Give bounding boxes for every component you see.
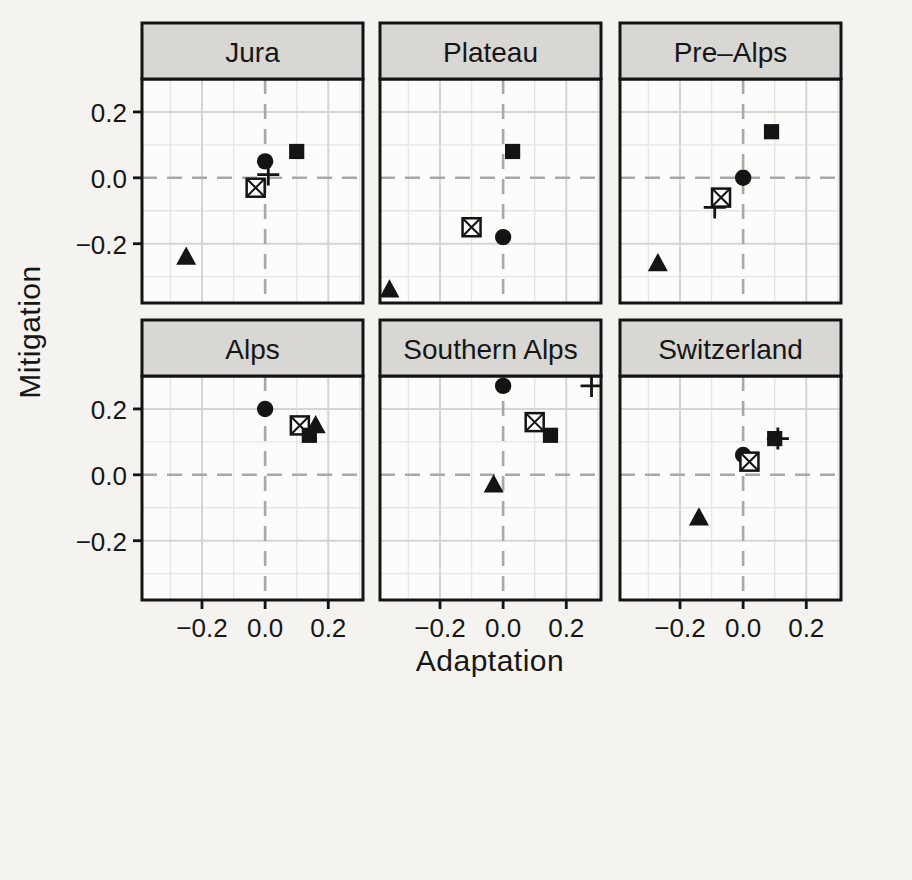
x-tick-label: 0.2	[310, 613, 346, 643]
southern-alps-total-marker	[526, 413, 544, 431]
facet-title-southern-alps: Southern Alps	[403, 334, 577, 365]
southern-alps-biodiversity-marker	[543, 428, 558, 443]
switzerland-total-marker	[740, 453, 758, 471]
y-tick-label: 0.2	[91, 98, 127, 128]
y-tick-label: −0.2	[76, 230, 127, 260]
y-axis-title: Mitigation	[13, 265, 47, 398]
y-tick-label: 0.2	[91, 395, 127, 425]
x-tick-label: −0.2	[176, 613, 227, 643]
facet-southern-alps: Southern Alps−0.20.00.2	[380, 320, 603, 643]
alps-resources-marker	[257, 401, 273, 417]
southern-alps-resources-marker	[495, 378, 511, 394]
figure-page: Jura0.20.0−0.2PlateauPre–AlpsAlps−0.20.0…	[0, 0, 912, 880]
pre-alps-resources-marker	[735, 170, 751, 186]
jura-total-marker	[247, 179, 265, 197]
plateau-biodiversity-marker	[505, 144, 520, 159]
x-tick-label: −0.2	[414, 613, 465, 643]
x-tick-label: 0.2	[788, 613, 824, 643]
x-tick-label: 0.0	[247, 613, 283, 643]
facet-alps: Alps−0.20.00.20.20.0−0.2	[76, 320, 363, 643]
facet-title-pre-alps: Pre–Alps	[674, 37, 788, 68]
x-tick-label: 0.0	[725, 613, 761, 643]
facet-plateau: Plateau	[379, 23, 601, 303]
facet-title-plateau: Plateau	[443, 37, 538, 68]
facet-switzerland: Switzerland−0.20.00.2	[620, 320, 841, 643]
pre-alps-biodiversity-marker	[764, 124, 779, 139]
y-tick-label: 0.0	[91, 461, 127, 491]
y-tick-label: 0.0	[91, 164, 127, 194]
facet-title-alps: Alps	[225, 334, 279, 365]
facet-title-switzerland: Switzerland	[658, 334, 803, 365]
x-axis-title: Adaptation	[416, 644, 564, 678]
alps-biodiversity-marker	[302, 428, 317, 443]
switzerland-biodiversity-marker	[767, 431, 782, 446]
pre-alps-total-marker	[712, 189, 730, 207]
plateau-total-marker	[463, 218, 481, 236]
plateau-resources-marker	[495, 229, 511, 245]
jura-biodiversity-marker	[289, 144, 304, 159]
facet-title-jura: Jura	[225, 37, 280, 68]
legend: Criterion Resources Production Biodivers…	[0, 730, 912, 870]
y-tick-label: −0.2	[76, 527, 127, 557]
jura-resources-marker	[257, 153, 273, 169]
facet-jura: Jura0.20.0−0.2	[76, 23, 363, 303]
x-tick-label: 0.0	[485, 613, 521, 643]
facet-pre-alps: Pre–Alps	[620, 23, 841, 303]
x-tick-label: −0.2	[654, 613, 705, 643]
facet-scatter-plot: Jura0.20.0−0.2PlateauPre–AlpsAlps−0.20.0…	[0, 0, 912, 700]
x-tick-label: 0.2	[548, 613, 584, 643]
